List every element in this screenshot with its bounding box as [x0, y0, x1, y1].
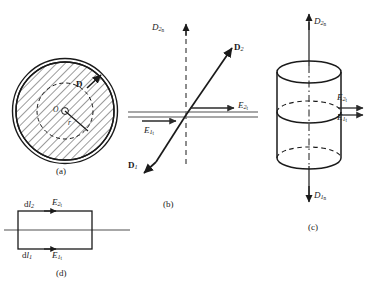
figure-canvas: O r D (a) D2n D2 D1 E2t E1t — [0, 0, 368, 285]
panel-c-normal-down-label: D1n — [314, 190, 326, 201]
panel-a-radius-label: r — [68, 118, 71, 127]
panel-c-normal-up-label: D2n — [314, 16, 326, 27]
panel-b-e1t-label: E1t — [144, 125, 154, 136]
panel-d-e2t-label: E2t — [52, 197, 62, 208]
panel-d-caption: (d) — [56, 268, 67, 278]
cylinder-top-ellipse — [277, 61, 341, 83]
panel-d-e1t-label: E1t — [52, 250, 62, 261]
ray-through-origin — [156, 115, 186, 162]
panel-b-vector-d1-label: D1 — [128, 160, 138, 170]
panel-a-drawing — [8, 52, 126, 170]
panel-c-drawing — [268, 8, 368, 220]
panel-a-vector-d-label: D — [76, 79, 83, 89]
panel-c-e2t-label: E2t — [337, 92, 347, 103]
panel-b-vector-d2-label: D2 — [234, 42, 244, 52]
vector-d2-shaft — [186, 48, 232, 115]
panel-b-normal-axis-label: D2n — [152, 22, 164, 33]
panel-b-e2t-label: E2t — [238, 100, 248, 111]
panel-a-caption: (a) — [56, 166, 66, 176]
panel-a-center-label: O — [53, 105, 58, 114]
panel-d-dl2-label: dl2 — [24, 199, 34, 209]
panel-b-drawing — [128, 16, 270, 184]
panel-b-caption: (b) — [163, 199, 174, 209]
panel-d-dl1-label: dl1 — [22, 250, 32, 260]
panel-c-caption: (c) — [308, 222, 318, 232]
panel-c-e1t-label: E1t — [337, 112, 347, 123]
vector-d1-shaft — [144, 162, 156, 173]
